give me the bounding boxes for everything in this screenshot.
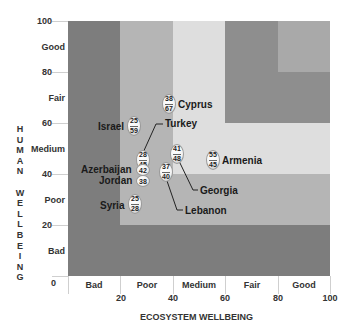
bubble-human-value: 48 [173, 154, 181, 164]
label-armenia: Armenia [222, 155, 262, 166]
bubble-human-value: 40 [162, 172, 170, 182]
label-lebanon: Lebanon [185, 205, 227, 216]
bubble-cyprus: 38 67 [162, 94, 176, 114]
label-israel: Israel [98, 121, 124, 132]
bubble-human-value: 59 [130, 126, 138, 136]
bubble-human-value: 67 [165, 104, 173, 114]
label-cyprus: Cyprus [178, 99, 212, 110]
label-azerbaijan: Azerbaijan [81, 164, 132, 175]
label-syria: Syria [100, 200, 124, 211]
bubble-syria: 25 28 [128, 194, 142, 214]
bubble-human-value: 38 [139, 176, 147, 187]
bubble-ecosystem-value: 38 [163, 95, 175, 104]
bubble-ecosystem-value: 25 [129, 195, 141, 204]
label-georgia: Georgia [200, 185, 238, 196]
bubble-ecosystem-value: 55 [207, 151, 219, 160]
bubble-jordan: 38 [136, 175, 150, 187]
bubble-ecosystem-value: 25 [128, 117, 140, 126]
bubble-georgia: 41 48 [170, 144, 184, 164]
label-jordan: Jordan [99, 175, 132, 186]
bubble-ecosystem-value: 41 [171, 145, 183, 154]
bubble-armenia: 55 45 [206, 150, 220, 170]
leader-lines [0, 0, 354, 330]
bubble-human-value: 45 [209, 160, 217, 170]
bubble-israel: 25 59 [127, 116, 141, 136]
bubble-ecosystem-value: 37 [160, 163, 172, 172]
bubble-human-value: 28 [131, 204, 139, 214]
label-turkey: Turkey [165, 118, 197, 129]
bubble-lebanon: 37 40 [159, 162, 173, 182]
bubble-ecosystem-value: 28 [137, 151, 149, 160]
